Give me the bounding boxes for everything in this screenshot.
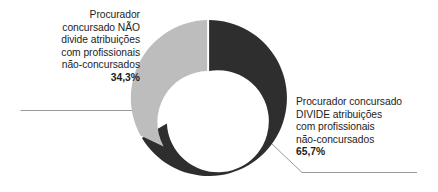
- label-nao-divide-line-2: concursado NÃO: [8, 22, 140, 35]
- label-nao-divide-value: 34,3%: [8, 72, 140, 85]
- slice-nao-divide-34-3[interactable]: [131, 20, 208, 146]
- label-divide-value: 65,7%: [296, 146, 436, 159]
- label-nao-divide-line-1: Procurador: [8, 9, 140, 22]
- slice-gap-top: [207, 19, 209, 72]
- label-nao-divide-line-4: com profissionais: [8, 47, 140, 60]
- label-divide-line-2: DIVIDE atribuições: [296, 109, 436, 122]
- label-nao-divide: Procurador concursado NÃO divide atribui…: [8, 9, 140, 85]
- label-divide: Procurador concursado DIVIDE atribuições…: [296, 96, 436, 159]
- label-nao-divide-line-3: divide atribuições: [8, 34, 140, 47]
- donut-chart: Procurador concursado NÃO divide atribui…: [0, 0, 438, 192]
- label-divide-line-1: Procurador concursado: [296, 96, 436, 109]
- label-divide-line-3: com profissionais: [296, 121, 436, 134]
- label-nao-divide-line-5: não-concursados: [8, 59, 140, 72]
- label-divide-line-4: não-concursados: [296, 134, 436, 147]
